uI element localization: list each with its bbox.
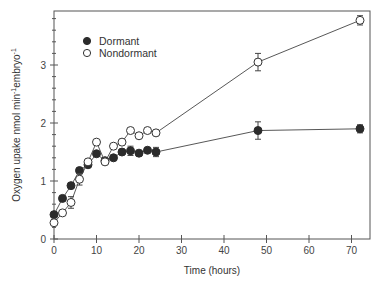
open-circle-marker-icon (76, 175, 84, 183)
y-tick-label: 0 (40, 234, 46, 245)
filled-circle-marker-icon (356, 125, 364, 133)
open-circle-marker-icon (144, 127, 152, 135)
y-axis-title-sup2: -1 (10, 48, 17, 54)
filled-circle-marker-icon (254, 127, 262, 135)
y-axis-title-main: Oxygen upake nmol min (11, 94, 22, 202)
y-tick-label: 3 (40, 60, 46, 71)
open-circle-marker-icon (152, 129, 160, 137)
filled-circle-marker-icon (135, 149, 143, 157)
filled-circle-marker-icon (93, 150, 101, 158)
data-series (50, 16, 364, 227)
y-tick-label: 1 (40, 176, 46, 187)
open-circle-marker-icon (118, 138, 126, 146)
x-tick-label: 60 (303, 245, 315, 256)
x-tick-label: 50 (261, 245, 273, 256)
open-circle-marker-icon (135, 132, 143, 140)
filled-circle-marker-icon (67, 182, 75, 190)
y-tick-label: 2 (40, 118, 46, 129)
x-axis-title: Time (hours) (184, 265, 240, 276)
x-tick-label: 0 (51, 245, 57, 256)
open-circle-marker-icon (84, 158, 92, 166)
open-circle-marker-icon (101, 158, 109, 166)
x-tick-label: 10 (91, 245, 103, 256)
open-circle-marker-icon (110, 142, 118, 150)
open-circle-marker-icon (50, 219, 58, 227)
series-dormant (50, 122, 364, 219)
open-circle-marker-icon (254, 58, 262, 66)
x-axis: 010203040506070 (51, 235, 357, 256)
open-circle-marker-icon (127, 127, 135, 135)
filled-circle-marker-icon (59, 194, 67, 202)
open-circle-marker-icon (356, 16, 364, 24)
x-tick-label: 30 (176, 245, 188, 256)
legend: Dormant Nondormant (83, 35, 156, 59)
open-circle-marker-icon (93, 138, 101, 146)
y-axis-title-mid: embryo (11, 54, 22, 88)
filled-circle-marker-icon (144, 146, 152, 154)
open-circle-marker-icon (59, 209, 67, 217)
legend-dormant-label: Dormant (99, 35, 139, 47)
legend-nondormant-marker-icon (83, 49, 90, 56)
y-axis-title: Oxygen upake nmol min-1embryo-1 (10, 48, 22, 202)
legend-dormant-marker-icon (83, 37, 90, 44)
legend-nondormant-label: Nondormant (99, 47, 157, 59)
x-tick-label: 70 (346, 245, 358, 256)
filled-circle-marker-icon (110, 154, 118, 162)
filled-circle-marker-icon (127, 147, 135, 155)
filled-circle-marker-icon (152, 148, 160, 156)
filled-circle-marker-icon (118, 148, 126, 156)
open-circle-marker-icon (67, 198, 75, 206)
series-nondormant (50, 16, 364, 227)
filled-circle-marker-icon (50, 211, 58, 219)
oxygen-uptake-chart: 0123 010203040506070 Dormant Nondormant … (0, 0, 379, 285)
x-tick-label: 40 (218, 245, 230, 256)
x-tick-label: 20 (133, 245, 145, 256)
